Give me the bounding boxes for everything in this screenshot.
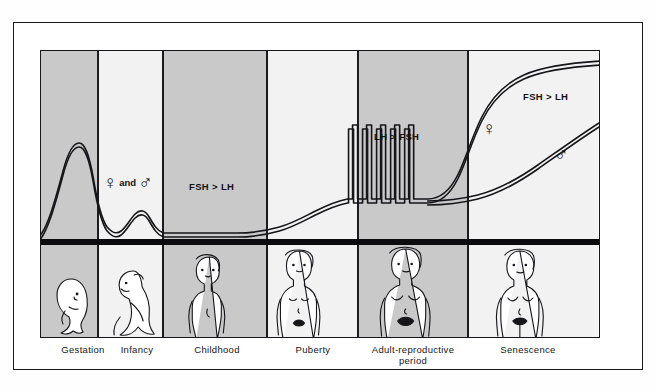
- symbol-female-senescence: ♀: [482, 119, 496, 138]
- annotation-fsh-gt-lh-senescence: FSH > LH: [523, 91, 568, 102]
- gonadotropin-curves: [41, 51, 599, 242]
- section-divider-bar: [41, 239, 599, 245]
- female-curve-inner: [41, 65, 599, 242]
- symbol-male-senescence: ♂: [554, 145, 568, 164]
- caption-senescence: Senescence: [472, 344, 584, 355]
- male-icon: ♂: [554, 145, 568, 164]
- caption-childhood: Childhood: [167, 344, 267, 355]
- figure-elder: [496, 249, 543, 338]
- diagram-panel: FSH > LH LH > FSH FSH > LH ♀ and ♂ ♀ ♂: [40, 50, 600, 338]
- male-icon: ♂: [138, 173, 152, 192]
- female-icon: ♀: [482, 119, 496, 138]
- figure-adolescent: [277, 250, 320, 338]
- figure-fetus: [57, 279, 87, 334]
- female-icon: ♀: [103, 173, 117, 192]
- figure-layer: [41, 245, 599, 338]
- conjunction-and: and: [119, 178, 136, 188]
- figure-root: FSH > LH LH > FSH FSH > LH ♀ and ♂ ♀ ♂ G…: [0, 0, 656, 392]
- symbol-female-and-male-infancy: ♀ and ♂: [103, 173, 152, 192]
- figure-child: [189, 255, 225, 338]
- curve-layer: [41, 51, 599, 242]
- caption-infancy: Infancy: [98, 344, 176, 355]
- caption-adult-reproductive: Adult-reproductive period: [356, 344, 470, 366]
- figure-infant: [114, 271, 154, 335]
- annotation-lh-gt-fsh-puberty: LH > FSH: [374, 131, 419, 142]
- male-curve-inner: [428, 125, 599, 205]
- caption-puberty: Puberty: [267, 344, 359, 355]
- annotation-fsh-gt-lh-childhood: FSH > LH: [189, 181, 234, 192]
- human-figures: [41, 245, 599, 338]
- male-curve: [428, 121, 599, 201]
- stage-captions: Gestation Infancy Childhood Puberty Adul…: [40, 344, 600, 370]
- figure-adult: [380, 247, 430, 338]
